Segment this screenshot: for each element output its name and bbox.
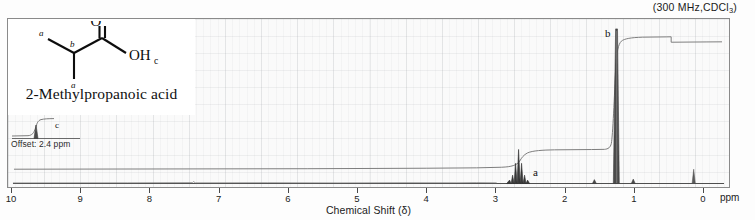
axis-tick-label: 7	[216, 193, 221, 204]
peak-b-core	[616, 31, 617, 183]
x-axis: 109876543210 ppm Chemical Shift (δ)	[7, 188, 730, 220]
offset-peak-trace	[10, 117, 86, 141]
bond-carbonyl-to-oh	[102, 38, 126, 53]
baseline-noise	[13, 182, 497, 183]
molecular-structure: O OH c a a b	[30, 21, 180, 89]
axis-tick-label: 9	[78, 193, 83, 204]
spectrometer-conditions: (300 MHz,CDCl3)	[653, 1, 737, 15]
offset-peak-c	[34, 125, 38, 139]
atom-label-OH: OH	[129, 47, 151, 63]
peak-minor-right	[631, 179, 635, 183]
axis-tick-label: 2	[562, 193, 567, 204]
offset-integration-curve	[12, 119, 54, 136]
structure-inset: O OH c a a b 2-Methylpropanoic acid	[8, 19, 195, 115]
axis-tick-label: 4	[424, 193, 429, 204]
peak-label-a: a	[533, 166, 538, 178]
nmr-spectrum-figure: (300 MHz,CDCl3)	[0, 0, 755, 220]
compound-name: 2-Methylpropanoic acid	[8, 85, 195, 103]
axis-unit-ppm: ppm	[720, 192, 739, 203]
atom-label-O: O	[91, 21, 102, 29]
structure-label-c: c	[154, 56, 158, 66]
axis-tick-label: 8	[147, 193, 152, 204]
peak-label-b: b	[605, 27, 611, 39]
axis-tick-label: 1	[631, 193, 636, 204]
offset-text: Offset: 2.4 ppm	[11, 139, 70, 149]
spectrometer-frequency-solvent: (300 MHz,CDCl	[653, 1, 729, 13]
axis-tick-label: 6	[285, 193, 290, 204]
offset-inset: c Offset: 2.4 ppm	[8, 117, 118, 157]
axis-title: Chemical Shift (δ)	[7, 204, 730, 216]
peak-tms	[692, 169, 695, 183]
spectrometer-paren-close: )	[733, 1, 737, 13]
axis-tick-label: 3	[493, 193, 498, 204]
structure-label-b: b	[70, 39, 75, 49]
peak-minor-left	[592, 180, 596, 184]
axis-tick-label: 0	[700, 193, 705, 204]
axis-tick-label: 5	[354, 193, 359, 204]
structure-label-a-top: a	[39, 28, 44, 38]
axis-tick-label: 10	[6, 193, 17, 204]
offset-peak-label-c: c	[55, 120, 59, 130]
bond-ch-to-carbonyl	[74, 38, 102, 53]
